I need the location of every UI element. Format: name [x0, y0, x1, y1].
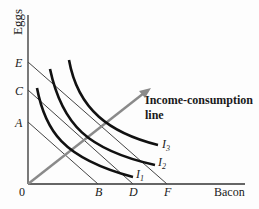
icc-label-line2: line [145, 108, 164, 122]
label-i2: I2 [157, 155, 166, 171]
budget-line-cd [28, 90, 133, 184]
income-consumption-diagram: Eggs E C A 0 B D F Bacon I1 I2 I3 Income… [0, 0, 259, 209]
label-a: A [14, 116, 23, 130]
diagram-canvas: Eggs E C A 0 B D F Bacon I1 I2 I3 Income… [0, 0, 259, 209]
icc-label-line1: Income-consumption [145, 93, 253, 107]
label-f: F [163, 185, 172, 199]
label-i1: I1 [135, 167, 144, 183]
y-axis-label: Eggs [10, 9, 25, 35]
income-consumption-line [28, 93, 144, 184]
label-d: D [128, 185, 138, 199]
label-i3: I3 [161, 137, 170, 153]
indifference-curve-i2 [50, 69, 155, 165]
x-axis-label: Bacon [214, 185, 245, 199]
label-c: C [15, 84, 24, 98]
label-e: E [14, 56, 23, 70]
label-b: B [95, 185, 103, 199]
origin-label: 0 [19, 185, 25, 199]
